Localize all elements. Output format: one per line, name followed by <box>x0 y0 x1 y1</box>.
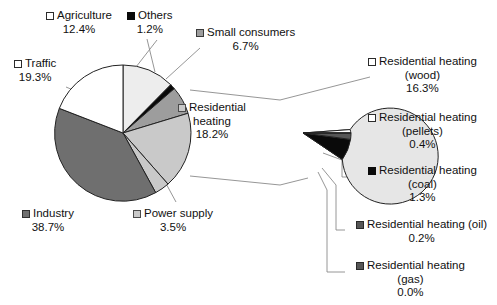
swatch-traffic <box>14 60 22 68</box>
label-rh-coal-qualifier: (coal) <box>368 178 477 192</box>
label-rh-oil-value: 0.2% <box>356 232 487 246</box>
label-residential-heating[interactable]: Residential heating 18.2% <box>178 101 246 142</box>
label-residential-heating-name-2: heating <box>178 115 246 129</box>
label-rh-wood-name: Residential heating <box>379 55 477 67</box>
label-rh-coal[interactable]: Residential heating (coal) 1.3% <box>368 164 477 205</box>
label-rh-pellets[interactable]: Residential heating (pellets) 0.4% <box>368 111 477 152</box>
label-traffic[interactable]: Traffic 19.3% <box>14 57 56 84</box>
swatch-rh-gas <box>356 262 364 270</box>
label-rh-wood[interactable]: Residential heating (wood) 16.3% <box>368 55 477 96</box>
label-small-consumers-name: Small consumers <box>207 26 295 38</box>
label-rh-pellets-qualifier: (pellets) <box>368 125 477 139</box>
label-power-supply-name: Power supply <box>144 207 213 219</box>
label-rh-oil-name: Residential heating (oil) <box>367 218 487 230</box>
slice-rh-pellets[interactable] <box>303 130 351 133</box>
label-residential-heating-name-1: Residential <box>189 101 246 113</box>
leader-small-consumers <box>166 48 200 79</box>
label-small-consumers[interactable]: Small consumers 6.7% <box>196 26 295 53</box>
swatch-agriculture <box>46 12 54 20</box>
swatch-others <box>127 12 135 20</box>
label-rh-gas[interactable]: Residential heating (gas) 0.0% <box>356 259 465 300</box>
label-small-consumers-value: 6.7% <box>196 40 295 54</box>
label-rh-gas-value: 0.0% <box>356 286 465 300</box>
swatch-residential-heating <box>178 104 186 112</box>
label-others-name: Others <box>138 9 173 21</box>
label-industry-name: Industry <box>33 207 74 219</box>
label-rh-gas-qualifier: (gas) <box>356 273 465 287</box>
label-power-supply-value: 3.5% <box>133 221 213 235</box>
label-industry[interactable]: Industry 38.7% <box>22 207 74 234</box>
pie-chart-figure: Agriculture 12.4% Others 1.2% Small cons… <box>0 0 497 305</box>
leader-breakout-top <box>190 77 370 100</box>
swatch-rh-coal <box>368 167 376 175</box>
swatch-rh-wood <box>368 58 376 66</box>
label-others-value: 1.2% <box>127 23 173 37</box>
label-agriculture[interactable]: Agriculture 12.4% <box>46 9 112 36</box>
label-rh-pellets-name: Residential heating <box>379 111 477 123</box>
label-agriculture-value: 12.4% <box>46 23 112 37</box>
main-pie <box>55 65 191 201</box>
label-traffic-name: Traffic <box>25 57 56 69</box>
label-rh-gas-name: Residential heating <box>367 259 465 271</box>
label-rh-coal-name: Residential heating <box>379 164 477 176</box>
swatch-rh-oil <box>356 221 364 229</box>
label-rh-oil[interactable]: Residential heating (oil) 0.2% <box>356 218 487 245</box>
label-industry-value: 38.7% <box>22 221 74 235</box>
leader-breakout-bottom <box>190 176 308 185</box>
label-agriculture-name: Agriculture <box>57 9 112 21</box>
leader-others <box>136 40 157 67</box>
label-traffic-value: 19.3% <box>14 71 56 85</box>
label-rh-wood-qualifier: (wood) <box>368 69 477 83</box>
swatch-rh-pellets <box>368 114 376 122</box>
label-rh-coal-value: 1.3% <box>368 191 477 205</box>
label-power-supply[interactable]: Power supply 3.5% <box>133 207 213 234</box>
label-others[interactable]: Others 1.2% <box>127 9 173 36</box>
swatch-small-consumers <box>196 29 204 37</box>
label-residential-heating-value: 18.2% <box>178 128 246 142</box>
swatch-power-supply <box>133 210 141 218</box>
label-rh-wood-value: 16.3% <box>368 82 477 96</box>
swatch-industry <box>22 210 30 218</box>
label-rh-pellets-value: 0.4% <box>368 138 477 152</box>
leader-rh-gas <box>318 172 345 272</box>
